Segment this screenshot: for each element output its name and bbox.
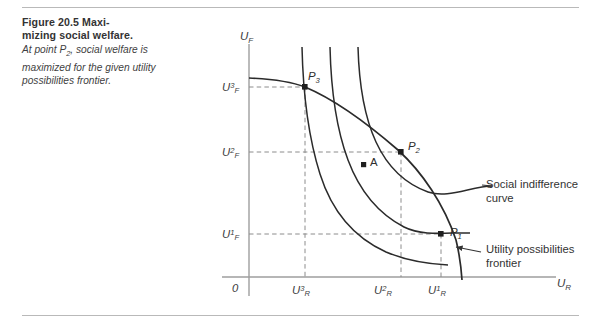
point-label-P2: P2 [408, 140, 420, 155]
point-label-A: A [370, 156, 378, 168]
y-axis-label-subscript: F [248, 36, 253, 45]
x-axis-label-subscript: R [565, 283, 571, 292]
annotation-utility-possibilities-frontier: Utility possibilities frontier [486, 243, 594, 270]
origin-label: 0 [232, 282, 238, 294]
social-indifference-curve-3 [358, 47, 492, 194]
utility-possibilities-frontier-curve [249, 78, 462, 280]
point-label-P3: P3 [308, 70, 320, 85]
leader-line-utility-frontier [456, 247, 481, 252]
chart-canvas [0, 0, 601, 330]
plot-area: UF UR U3F U2F U1F 0 U3R U2R U1R P3 P2 P1… [0, 0, 601, 330]
x-tick-label-1: U1R [428, 283, 446, 299]
social-indifference-curve-2 [330, 47, 470, 233]
y-tick-label-3: U3F [222, 80, 239, 96]
annotation-social-indifference-curve: Social indifference curve [486, 178, 594, 205]
x-tick-label-3: U3R [292, 283, 310, 299]
y-axis-label: UF [240, 30, 253, 45]
x-axis-label: UR [557, 277, 571, 292]
point-marker-P3 [302, 84, 308, 90]
point-label-P1: P1 [450, 226, 462, 241]
point-marker-P1 [438, 231, 444, 237]
y-tick-label-2: U2F [222, 145, 239, 161]
figure-container: Figure 20.5 Maxi- mizing social welfare.… [0, 0, 601, 330]
y-tick-label-1: U1F [222, 227, 239, 243]
x-tick-label-2: U2R [374, 283, 392, 299]
point-marker-P2 [398, 149, 404, 155]
point-marker-A [361, 162, 366, 167]
